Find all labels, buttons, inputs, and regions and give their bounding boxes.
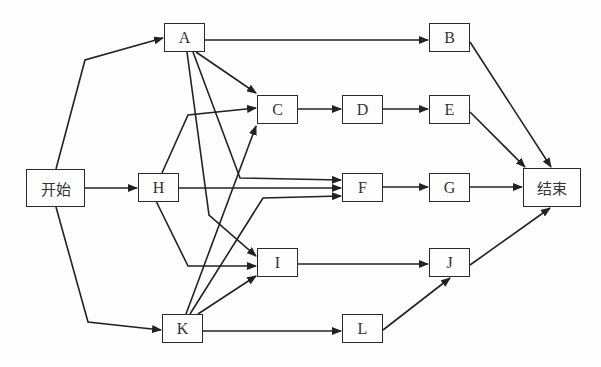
edge-layer [0, 0, 601, 367]
node-b: B [429, 23, 470, 52]
edge-start-to-k-arrow [56, 207, 161, 330]
node-label: I [275, 254, 280, 272]
node-label: 结束 [537, 177, 567, 198]
edge-k-to-i-arrow [198, 276, 256, 314]
edge-a-to-c-arrow [196, 52, 256, 93]
node-label: B [444, 29, 455, 47]
edge-l-to-j-arrow [383, 278, 450, 330]
edge-e-to-end-arrow [470, 112, 525, 167]
node-label: D [357, 101, 369, 119]
node-label: L [358, 320, 368, 338]
node-j: J [429, 248, 470, 277]
node-start: 开始 [26, 169, 85, 207]
edge-k-to-c-arrow [186, 126, 256, 314]
node-c: C [257, 95, 298, 124]
node-d: D [342, 95, 383, 124]
node-label: 开始 [41, 178, 71, 199]
node-f: F [342, 173, 383, 202]
node-label: C [272, 101, 283, 119]
node-label: G [444, 179, 456, 197]
edge-j-to-end-arrow [470, 208, 550, 265]
node-l: L [342, 314, 383, 343]
node-h: H [138, 173, 179, 202]
node-label: E [445, 101, 455, 119]
node-end: 结束 [523, 168, 581, 207]
network-diagram: 开始ABCDEHFG结束IJKL [0, 0, 601, 367]
node-label: H [153, 179, 165, 197]
edge-start-to-a-arrow [56, 38, 163, 169]
node-label: F [358, 179, 367, 197]
node-g: G [429, 173, 470, 202]
node-k: K [162, 314, 203, 343]
edge-b-to-end-arrow [470, 42, 551, 167]
node-i: I [257, 248, 298, 277]
node-e: E [429, 95, 470, 124]
node-label: A [179, 29, 191, 47]
node-label: J [446, 254, 452, 272]
node-a: A [164, 23, 205, 52]
node-label: K [177, 320, 189, 338]
